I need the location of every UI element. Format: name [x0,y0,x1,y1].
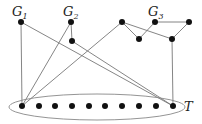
node-g3-d [186,19,192,25]
node-t6 [102,103,108,109]
edge [21,22,173,106]
node-t2 [36,103,42,109]
graph-diagram: G1 G2 G3 T [0,0,202,124]
node-g2-bottom [69,38,75,44]
edge [22,22,71,106]
label-g3: G3 [148,4,163,21]
node-g3-c [152,19,158,25]
label-g2: G2 [63,4,78,21]
nodes [18,19,192,109]
label-t: T [184,99,194,114]
edges [21,22,189,106]
node-t4 [69,103,75,109]
edge [122,22,172,39]
node-g3-b [136,36,142,42]
node-t9 [153,103,159,109]
node-t10 [170,103,176,109]
node-g3-a [119,19,125,25]
label-g1: G1 [12,4,27,21]
node-t5 [86,103,92,109]
edge [172,22,189,39]
edge [21,22,22,106]
edge [172,39,173,106]
node-t1 [19,103,25,109]
node-t3 [52,103,58,109]
node-t8 [136,103,142,109]
node-g3-e [169,36,175,42]
node-t7 [119,103,125,109]
